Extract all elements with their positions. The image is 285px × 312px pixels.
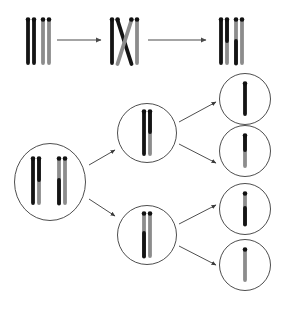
gamete-cell-3 [220,184,271,235]
daughter-cell-bottom-membrane [118,206,177,265]
chromatid-g3-c1 [243,191,248,226]
chromatid-t3-c4 [240,17,245,65]
chromatid-t1-c4 [47,17,52,65]
parent-cell [15,144,86,221]
chromatid-d1-c2 [148,109,153,156]
parent-cell-membrane [15,144,86,221]
chromatid-d1-c1 [142,109,147,156]
daughter-cell-bottom [118,206,177,265]
gamete-cell-2 [220,126,271,177]
chromatid-t1-c3 [41,17,46,65]
chromatid-p-c3 [57,156,62,205]
chromatid-t1-c2 [32,17,37,65]
chromatid-t1-c1 [26,17,31,65]
gamete-cell-1 [220,74,271,125]
chromatid-t2-c1 [110,17,115,65]
daughter-cell-top [118,104,177,163]
chromatid-d2-c1 [142,211,147,258]
chromatid-p-c4 [63,156,68,205]
chromatid-p-c1 [31,156,36,205]
chromatid-g1-c1 [243,81,248,116]
meiosis-crossing-over-diagram [0,0,285,312]
gamete-cell-4 [220,240,271,291]
chromatid-g4-c1 [243,247,248,282]
chromatid-t2-c4 [135,17,140,65]
diagram-canvas [0,0,285,312]
chromatid-t3-c1 [219,17,224,65]
chromatid-g2-c1 [243,133,248,168]
chromatid-t3-c2 [225,17,230,65]
chromatid-t3-c3 [234,17,239,65]
chromatid-d2-c2 [148,211,153,258]
chromatid-p-c2 [37,156,42,205]
daughter-cell-top-membrane [118,104,177,163]
